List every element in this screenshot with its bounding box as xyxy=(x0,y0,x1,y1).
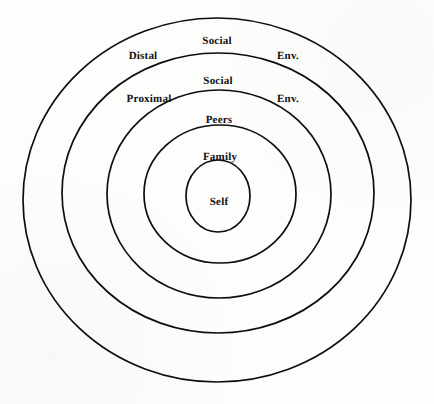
label-proximal: Proximal xyxy=(127,93,172,105)
label-social-proximal: Social xyxy=(203,75,232,87)
label-env-distal: Env. xyxy=(277,50,299,62)
label-distal: Distal xyxy=(129,50,158,62)
label-peers: Peers xyxy=(206,114,233,126)
concentric-circles-diagram: SocialDistalEnv.SocialProximalEnv.PeersF… xyxy=(0,0,434,404)
label-family: Family xyxy=(203,151,237,163)
label-env-proximal: Env. xyxy=(277,93,299,105)
label-self: Self xyxy=(210,196,229,208)
label-social-distal: Social xyxy=(202,35,231,47)
labels-layer: SocialDistalEnv.SocialProximalEnv.PeersF… xyxy=(0,0,434,404)
